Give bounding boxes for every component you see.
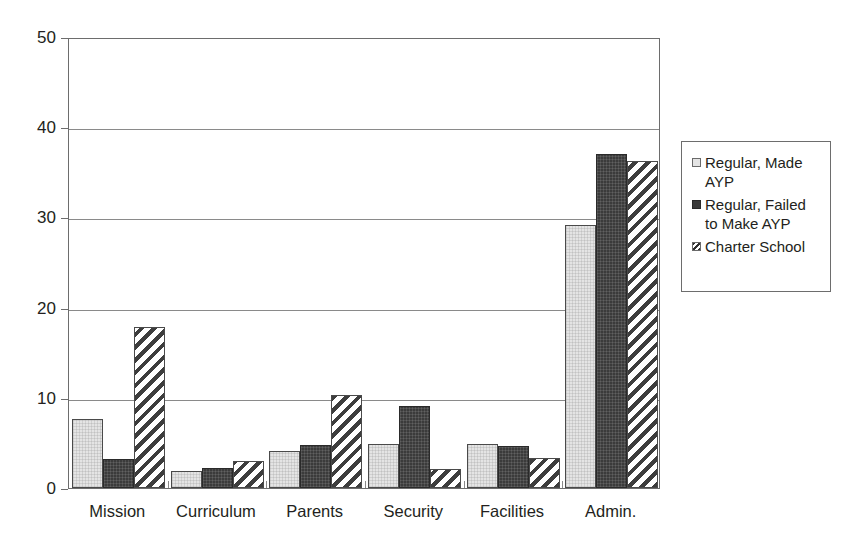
legend-entry-1[interactable]: Regular, Failed to Make AYP xyxy=(692,195,824,233)
y-tick-label-10: 10 xyxy=(37,390,56,407)
legend-label-0: Regular, Made AYP xyxy=(705,153,803,191)
y-tick-label-50: 50 xyxy=(37,29,56,46)
y-tick-label-20: 20 xyxy=(37,300,56,317)
y-tick-mark-20 xyxy=(61,309,68,310)
bar-curriculum-series1 xyxy=(202,468,233,488)
bar-parents-series1 xyxy=(300,445,331,488)
bar-mission-series2 xyxy=(134,327,165,488)
legend-label-1: Regular, Failed to Make AYP xyxy=(705,195,806,233)
bar-facilities-series0 xyxy=(467,444,498,488)
x-label-facilities: Facilities xyxy=(463,503,562,520)
y-tick-label-30: 30 xyxy=(37,209,56,226)
category-separator-2 xyxy=(365,481,366,488)
legend-label-2: Charter School xyxy=(705,237,805,256)
bar-parents-series2 xyxy=(331,395,362,488)
legend-entry-0[interactable]: Regular, Made AYP xyxy=(692,153,824,191)
bar-mission-series1 xyxy=(103,459,134,488)
bar-admin-series1 xyxy=(596,154,627,488)
dark-solid-swatch xyxy=(692,200,701,209)
bar-admin-series2 xyxy=(627,161,658,488)
y-tick-mark-40 xyxy=(61,128,68,129)
x-label-parents: Parents xyxy=(265,503,364,520)
bar-mission-series0 xyxy=(72,419,103,488)
y-tick-label-40: 40 xyxy=(37,119,56,136)
legend-entry-2[interactable]: Charter School xyxy=(692,237,824,256)
category-separator-3 xyxy=(464,481,465,488)
y-tick-mark-30 xyxy=(61,218,68,219)
bar-security-series1 xyxy=(399,406,430,488)
category-separator-4 xyxy=(562,481,563,488)
y-tick-mark-0 xyxy=(61,489,68,490)
bar-parents-series0 xyxy=(269,451,300,488)
gridline-30 xyxy=(69,219,659,220)
category-separator-1 xyxy=(266,481,267,488)
y-tick-label-0: 0 xyxy=(47,480,56,497)
category-separator-0 xyxy=(168,481,169,488)
gridline-40 xyxy=(69,129,659,130)
x-label-curriculum: Curriculum xyxy=(167,503,266,520)
x-label-security: Security xyxy=(364,503,463,520)
bar-security-series2 xyxy=(430,469,461,488)
bar-chart-figure: 01020304050 MissionCurriculumParentsSecu… xyxy=(0,0,848,552)
light-gray-swatch xyxy=(692,158,701,167)
legend: Regular, Made AYPRegular, Failed to Make… xyxy=(681,141,831,292)
y-tick-mark-10 xyxy=(61,399,68,400)
bar-curriculum-series2 xyxy=(233,461,264,488)
bar-facilities-series1 xyxy=(498,446,529,488)
y-tick-mark-50 xyxy=(61,38,68,39)
hatched-swatch xyxy=(692,242,701,251)
x-label-admin: Admin. xyxy=(561,503,660,520)
bar-admin-series0 xyxy=(565,225,596,488)
bar-security-series0 xyxy=(368,444,399,488)
bar-curriculum-series0 xyxy=(171,471,202,488)
bar-facilities-series2 xyxy=(529,458,560,488)
x-label-mission: Mission xyxy=(68,503,167,520)
legend-entries: Regular, Made AYPRegular, Failed to Make… xyxy=(692,153,824,256)
plot-area xyxy=(68,38,660,489)
